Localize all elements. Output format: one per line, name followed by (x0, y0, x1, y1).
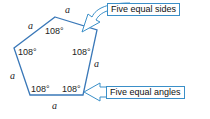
angle-label-left: 108° (18, 47, 37, 57)
side-label-bottom: a (52, 100, 57, 111)
side-label-left: a (10, 70, 15, 81)
angle-label-right: 108° (72, 47, 91, 57)
pentagon-diagram (0, 0, 210, 119)
side-label-top-right: a (65, 4, 70, 15)
side-label-right: a (94, 58, 99, 69)
angle-label-top: 108° (45, 26, 64, 36)
angle-label-bottom-left: 108° (31, 84, 50, 94)
callout-five-equal-angles: Five equal angles (106, 86, 185, 99)
angle-label-bottom-right: 108° (62, 84, 81, 94)
callout-five-equal-sides: Five equal sides (107, 3, 180, 16)
side-label-top-left: a (28, 20, 33, 31)
